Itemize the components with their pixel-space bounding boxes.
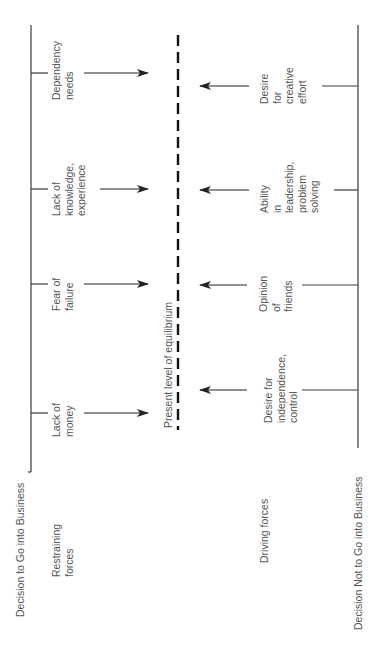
equilibrium-label: Present level of equilibrium	[162, 302, 175, 428]
driving-heading: Driving forces	[258, 499, 271, 563]
restraining-heading: Restraining forces	[50, 524, 75, 577]
driving-force-label: Desire for independence, control	[262, 354, 300, 423]
driving-force-label: Ability in leadership, problem solving	[258, 162, 321, 213]
bottom-pole-label: Decision Not to Go into Business	[352, 477, 365, 631]
driving-force-label: Opinion of friends	[257, 276, 295, 312]
restraining-force-label: Fear of failure	[50, 278, 75, 311]
restraining-force-label: Lack of money	[50, 403, 75, 437]
force-field-diagram: Decision to Go into Business Decision No…	[0, 0, 379, 655]
restraining-force-label: Lack of knowledge, experience	[50, 163, 88, 216]
restraining-force-label: Dependency needs	[50, 41, 75, 100]
top-pole-label: Decision to Go into Business	[14, 483, 27, 617]
driving-force-label: Desire for creative effort	[258, 67, 308, 104]
